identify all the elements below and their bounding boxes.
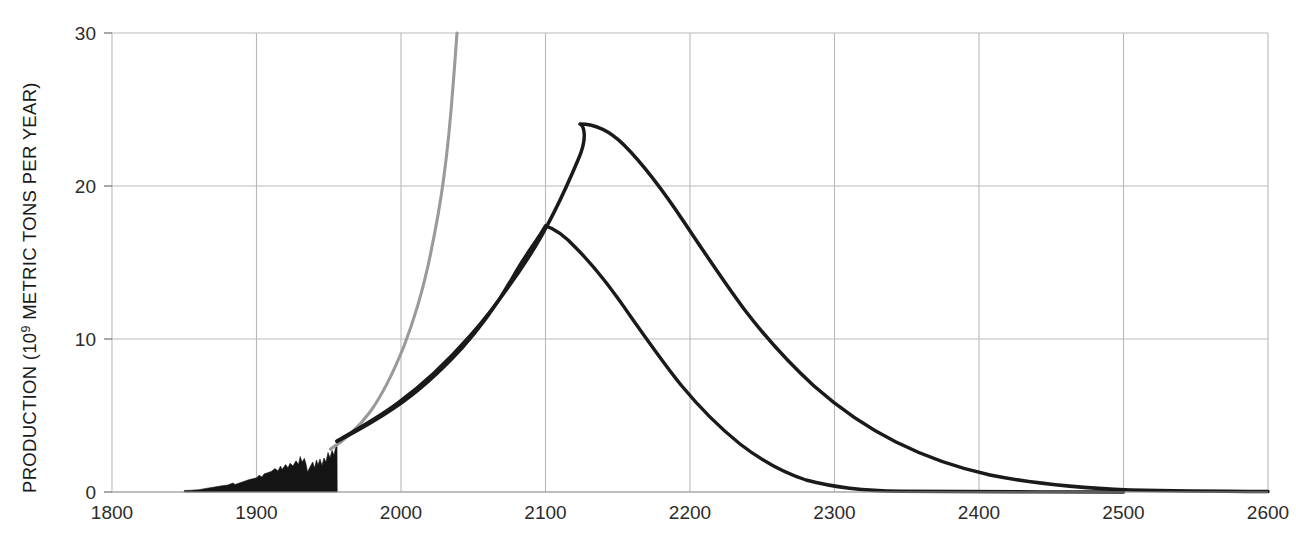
y-axis-title: PRODUCTION (109 METRIC TONS PER YEAR) [19, 82, 40, 493]
ytick-label-10: 10 [75, 329, 96, 350]
xtick-label-2400: 2400 [958, 502, 1000, 523]
ytick-label-30: 30 [75, 23, 96, 44]
svg-text:PRODUCTION (109 METRIC TONS PE: PRODUCTION (109 METRIC TONS PER YEAR) [19, 82, 40, 493]
xtick-label-1800: 1800 [91, 502, 133, 523]
y-axis-title-superscript: 9 [19, 325, 33, 332]
xtick-label-2300: 2300 [813, 502, 855, 523]
xtick-label-2600: 2600 [1247, 502, 1289, 523]
xtick-label-1900: 1900 [235, 502, 277, 523]
xtick-label-2500: 2500 [1102, 502, 1144, 523]
ytick-label-0: 0 [85, 482, 96, 503]
chart-figure: 30 20 10 0 1800 1900 2000 2100 2200 2300… [0, 0, 1296, 539]
xtick-label-2200: 2200 [669, 502, 711, 523]
xtick-label-2000: 2000 [380, 502, 422, 523]
ytick-label-20: 20 [75, 176, 96, 197]
xtick-label-2100: 2100 [524, 502, 566, 523]
fossil-fuel-production-chart: 30 20 10 0 1800 1900 2000 2100 2200 2300… [0, 0, 1296, 539]
y-axis-title-prefix: PRODUCTION (10 [19, 333, 40, 493]
chart-background [0, 0, 1296, 539]
y-axis-title-suffix: METRIC TONS PER YEAR) [19, 82, 40, 325]
